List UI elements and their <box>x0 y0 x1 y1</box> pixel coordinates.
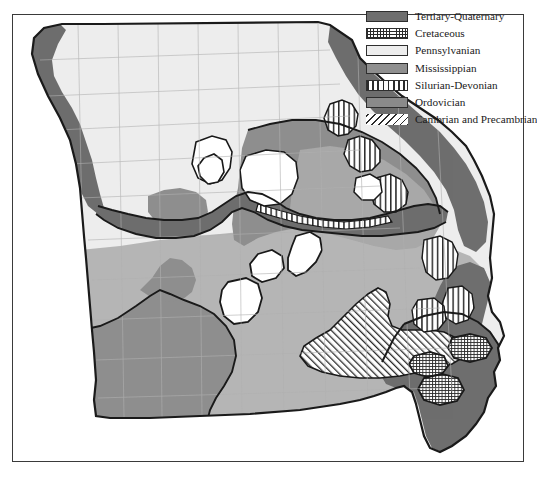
legend-label-mississippian: Mississippian <box>415 63 477 74</box>
map-legend: Tertiary-Quaternary Cretaceous Pennsylva… <box>366 8 537 128</box>
legend-swatch-cretaceous <box>366 28 408 39</box>
legend-label-cambrian-precambrian: Cambrian and Precambrian <box>415 114 537 125</box>
legend-item-cambrian-precambrian: Cambrian and Precambrian <box>366 111 537 128</box>
legend-swatch-silurian-devonian <box>366 80 408 91</box>
legend-swatch-ordovician <box>366 97 408 108</box>
region-cretaceous-bootheel-west <box>418 374 464 405</box>
legend-item-tertiary-quaternary: Tertiary-Quaternary <box>366 8 537 25</box>
legend-swatch-tertiary-quaternary <box>366 11 408 22</box>
legend-swatch-pennsylvanian <box>366 45 408 56</box>
legend-label-silurian-devonian: Silurian-Devonian <box>415 80 498 91</box>
legend-swatch-mississippian <box>366 63 408 74</box>
legend-item-mississippian: Mississippian <box>366 60 537 77</box>
legend-label-ordovician: Ordovician <box>415 97 465 108</box>
legend-swatch-cambrian-precambrian <box>366 114 408 125</box>
legend-label-cretaceous: Cretaceous <box>415 28 465 39</box>
legend-item-ordovician: Ordovician <box>366 94 537 111</box>
region-cretaceous-bootheel-east <box>448 334 492 362</box>
legend-item-cretaceous: Cretaceous <box>366 25 537 42</box>
legend-item-silurian-devonian: Silurian-Devonian <box>366 77 537 94</box>
legend-item-pennsylvanian: Pennsylvanian <box>366 42 537 59</box>
legend-label-tertiary-quaternary: Tertiary-Quaternary <box>415 11 504 22</box>
legend-label-pennsylvanian: Pennsylvanian <box>415 45 480 56</box>
